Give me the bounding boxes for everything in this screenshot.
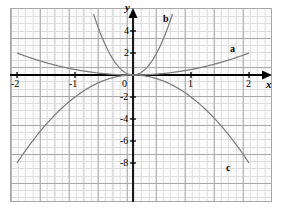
graph-vector-layer: [0, 0, 281, 211]
y-tick-label-4: 4: [124, 26, 129, 36]
y-tick-label--4: -4: [120, 114, 128, 124]
parabola-graph-figure: -2 -1 0 1 2 -8 -6 -4 -2 2 4 y x a b c: [0, 0, 281, 211]
x-tick-label-0: 0: [122, 79, 127, 89]
y-tick-label--6: -6: [120, 136, 128, 146]
curve-label-a: a: [230, 44, 235, 54]
curve-label-c: c: [226, 163, 230, 173]
x-tick-label-1: 1: [188, 79, 193, 89]
x-tick-label--2: -2: [11, 79, 19, 89]
x-axis-label: x: [266, 79, 272, 90]
y-tick-label--2: -2: [120, 92, 128, 102]
y-tick-label-2: 2: [124, 48, 129, 58]
x-tick-label-2: 2: [246, 79, 251, 89]
x-tick-label--1: -1: [69, 79, 77, 89]
y-axis-label: y: [125, 2, 130, 13]
y-tick-label--8: -8: [120, 158, 128, 168]
curve-label-b: b: [163, 14, 169, 24]
